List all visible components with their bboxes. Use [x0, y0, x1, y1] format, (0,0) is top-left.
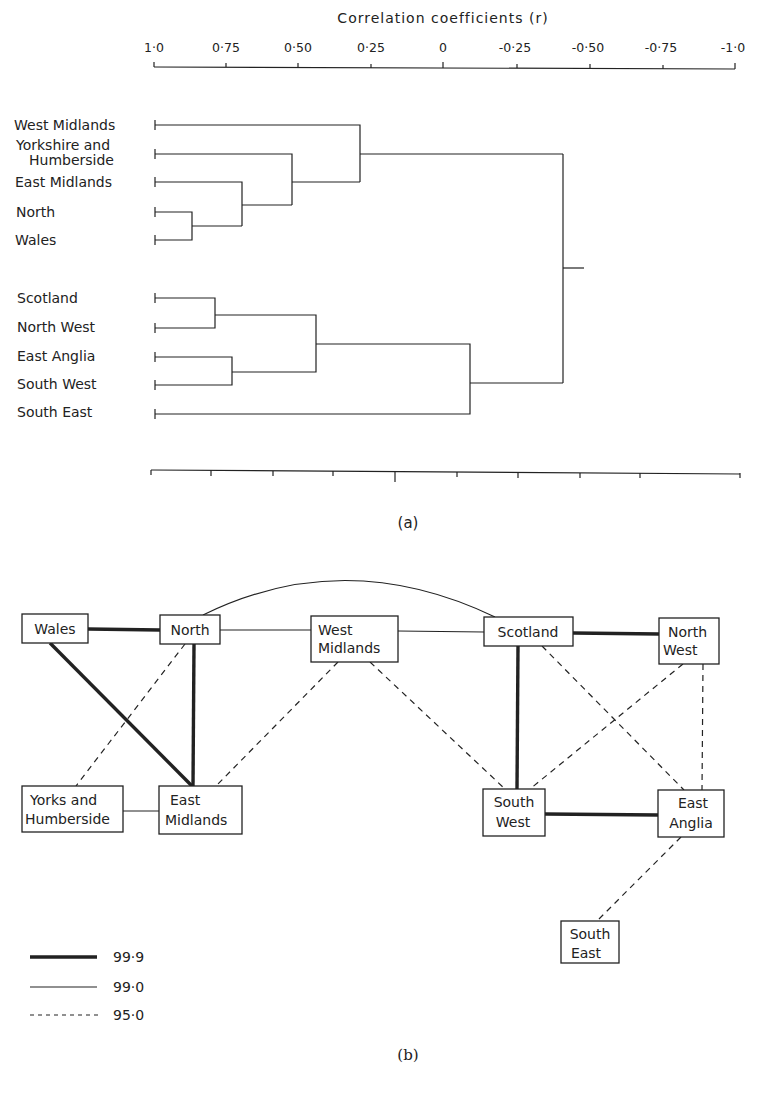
svg-text:South: South [570, 926, 611, 942]
svg-text:Scotland: Scotland [498, 624, 559, 640]
svg-text:West: West [496, 814, 531, 830]
tick-label: 0·75 [212, 40, 240, 55]
edge-north-east-midlands [193, 644, 194, 786]
leaf-labels: West Midlands Yorkshire and Humberside E… [14, 117, 115, 420]
leaf-west-midlands: West Midlands [14, 117, 115, 133]
svg-text:North: North [668, 624, 707, 640]
svg-text:Anglia: Anglia [669, 815, 713, 831]
dendrogram-panel: Correlation coefficients (r) 1·0 0·75 0·… [14, 10, 745, 532]
svg-text:Humberside: Humberside [25, 811, 110, 827]
leaf-east-midlands: East Midlands [15, 174, 112, 190]
edge-north-west-south-west [530, 664, 683, 789]
legend-label-99-9: 99·9 [113, 949, 144, 965]
tick-label: 0 [439, 40, 447, 55]
node-south-west: South West [483, 789, 545, 836]
svg-text:East: East [678, 795, 709, 811]
tick-label: 1·0 [144, 40, 164, 55]
edge-east-anglia-south-east [597, 837, 681, 921]
legend-label-95-0: 95·0 [113, 1007, 144, 1023]
svg-text:South: South [494, 794, 535, 810]
edge-wales-north [88, 629, 160, 630]
svg-text:Yorks and: Yorks and [29, 792, 97, 808]
edge-scotland-south-west [517, 646, 518, 789]
edge-scotland-east-anglia [542, 646, 684, 790]
leaf-yorkshire-line1: Yorkshire and [15, 137, 110, 153]
bottom-axis [151, 470, 740, 482]
svg-text:West: West [318, 622, 353, 638]
node-west-midlands: West Midlands [311, 616, 398, 662]
node-south-east: South East [561, 921, 619, 963]
node-scotland: Scotland [484, 617, 573, 646]
edge-north-west-east-anglia [702, 664, 703, 790]
legend: 99·9 99·0 95·0 [30, 949, 144, 1023]
tick-label: 0·25 [357, 40, 385, 55]
svg-text:Midlands: Midlands [318, 640, 380, 656]
edge-west-midlands-scotland [398, 631, 484, 632]
edge-wales-east-midlands [50, 643, 192, 786]
svg-text:North: North [170, 622, 209, 638]
tick-label: -0·75 [645, 40, 677, 55]
tick-label: 0·50 [284, 40, 312, 55]
panel-a-caption: (a) [398, 514, 419, 532]
leaf-scotland: Scotland [17, 290, 78, 306]
edge-south-west-east-anglia [545, 814, 658, 815]
svg-text:East: East [571, 945, 602, 961]
leaf-east-anglia: East Anglia [17, 348, 95, 364]
node-east-anglia: East Anglia [658, 790, 724, 837]
leaf-south-east: South East [17, 404, 93, 420]
axis-title: Correlation coefficients (r) [337, 10, 548, 26]
leaf-wales: Wales [15, 232, 56, 248]
panel-b-caption: (b) [397, 1046, 418, 1064]
svg-text:West: West [663, 642, 698, 658]
edge-west-midlands-south-west [370, 662, 505, 789]
dendrogram-branches [155, 120, 584, 419]
leaf-yorkshire-line2: Humberside [29, 152, 114, 168]
leaf-south-west: South West [17, 376, 97, 392]
tick-label: -0·50 [572, 40, 604, 55]
node-north: North [160, 615, 220, 644]
svg-text:East: East [170, 792, 201, 808]
edge-west-midlands-east-midlands [216, 662, 338, 786]
figure: Correlation coefficients (r) 1·0 0·75 0·… [0, 0, 767, 1093]
node-north-west: North West [659, 618, 719, 664]
node-yorks-and-humberside: Yorks and Humberside [22, 786, 123, 832]
tick-label: -0·25 [499, 40, 531, 55]
axis-tick-labels: 1·0 0·75 0·50 0·25 0 -0·25 -0·50 -0·75 -… [144, 40, 745, 55]
svg-text:Wales: Wales [34, 621, 75, 637]
node-wales: Wales [22, 614, 88, 643]
tick-label: -1·0 [721, 40, 745, 55]
leaf-north-west: North West [17, 319, 96, 335]
legend-label-99-0: 99·0 [113, 979, 144, 995]
top-axis [154, 62, 735, 69]
node-east-midlands: East Midlands [159, 786, 242, 834]
network-panel: Wales North West Midlands Scotland North… [22, 580, 724, 1064]
svg-text:Midlands: Midlands [165, 812, 227, 828]
edge-scotland-north-west [573, 633, 659, 634]
edge-north-scotland-arc [203, 580, 495, 617]
leaf-north: North [16, 204, 55, 220]
